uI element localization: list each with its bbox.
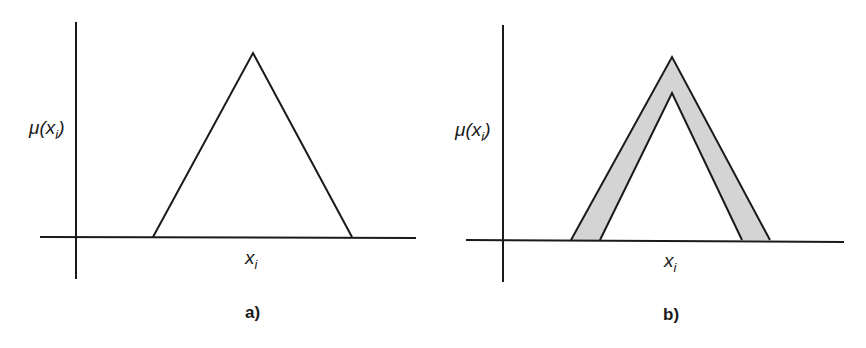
panel-b bbox=[466, 25, 844, 282]
x-axis-a bbox=[40, 237, 416, 238]
x-label-main: x bbox=[245, 247, 255, 268]
y-label-main: μ(x bbox=[455, 119, 481, 140]
x-axis-label-b: xi bbox=[664, 250, 676, 275]
y-axis-label-b: μ(xi) bbox=[455, 119, 490, 144]
y-axis-label-a: μ(xi) bbox=[29, 117, 64, 142]
x-label-main: x bbox=[664, 250, 674, 271]
y-label-main: μ(x bbox=[29, 117, 55, 138]
footprint-of-uncertainty bbox=[571, 57, 770, 240]
y-label-close: ) bbox=[484, 119, 490, 140]
x-label-subscript: i bbox=[255, 257, 258, 272]
diagram-canvas bbox=[0, 0, 866, 348]
panel-a bbox=[40, 22, 416, 279]
membership-triangle-a bbox=[153, 53, 352, 237]
panel-caption-a: a) bbox=[245, 303, 260, 323]
panel-caption-b: b) bbox=[663, 305, 679, 325]
x-axis-b bbox=[466, 240, 844, 242]
x-axis-label-a: xi bbox=[245, 247, 257, 272]
y-label-close: ) bbox=[58, 117, 64, 138]
x-label-subscript: i bbox=[674, 260, 677, 275]
